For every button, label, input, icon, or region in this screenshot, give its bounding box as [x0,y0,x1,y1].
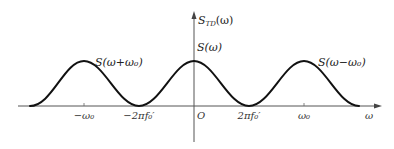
center-lobe-label: S(ω) [197,41,222,54]
y-axis [192,11,197,142]
left-lobe-label: S(ω+ω₀) [95,56,143,69]
y-axis-arrow-icon [192,11,197,19]
y-axis-label: STD(ω) [198,14,233,28]
x-axis-arrow-icon [374,104,382,109]
tick-label-2pi-f0: 2πf₀′ [237,110,262,121]
origin-label: O [197,110,205,121]
right-lobe-label: S(ω−ω₀) [318,56,366,69]
tick-label-neg-omega0: −ω₀ [74,110,95,121]
tick-label-omega0: ω₀ [298,110,310,121]
x-axis-label: ω [365,110,373,121]
x-axis [18,104,382,109]
spectrum-diagram: STD(ω) S(ω) S(ω+ω₀) S(ω−ω₀) −ω₀ −2πf₀′ O… [0,0,394,149]
tick-label-neg-2pi-f0: −2πf₀′ [123,110,155,121]
